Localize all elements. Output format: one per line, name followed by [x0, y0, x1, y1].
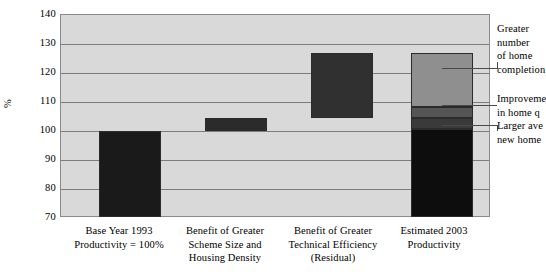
annotation-improvement-in-home-quality: Improveme in home q — [497, 92, 546, 119]
annotation-line-3: of home — [497, 49, 545, 63]
y-tick-110: 110 — [22, 96, 56, 106]
segment-improvement-in-home-quality — [411, 118, 473, 129]
segment-base-productivity — [99, 131, 161, 217]
annotation-line-4: completion — [497, 63, 545, 77]
annotation-line-2: number — [497, 36, 545, 50]
annotation-line-1: Improveme — [497, 92, 546, 106]
leader-line-home-quality — [442, 105, 497, 106]
segment-greater-number-of-home-completions — [411, 107, 473, 118]
leader-line-larger-new-home — [442, 125, 497, 126]
annotation-line-2: new home — [497, 133, 543, 147]
bar-base-year-1993 — [99, 15, 161, 216]
annotation-larger-average-new-home: Larger ave new home — [497, 119, 543, 146]
segment-technical-efficiency-benefit — [311, 53, 373, 118]
segment-scheme-size-benefit — [205, 118, 267, 131]
x-label-line-3: (Residual) — [263, 251, 403, 265]
x-label-estimated-2003-productivity: Estimated 2003 Productivity — [376, 224, 492, 251]
x-label-line-2: Productivity — [376, 238, 492, 252]
segment-estimated-total-2003 — [411, 53, 473, 107]
y-tick-100: 100 — [22, 125, 56, 135]
y-axis-title: % — [2, 99, 13, 108]
y-tick-80: 80 — [22, 183, 56, 193]
annotation-line-1: Larger ave — [497, 119, 543, 133]
annotation-line-1: Greater — [497, 22, 545, 36]
bar-benefit-scheme-size — [205, 15, 267, 216]
y-tick-90: 90 — [22, 154, 56, 164]
x-label-line-1: Estimated 2003 — [376, 224, 492, 238]
y-axis: 140 130 120 110 100 90 80 70 — [16, 0, 56, 275]
annotation-line-2: in home q — [497, 106, 546, 120]
y-tick-70: 70 — [22, 212, 56, 222]
plot-area — [60, 14, 490, 217]
y-tick-130: 130 — [22, 38, 56, 48]
bar-estimated-2003-productivity — [411, 15, 473, 216]
leader-line-home-completions — [442, 68, 497, 69]
bar-benefit-technical-efficiency — [311, 15, 373, 216]
annotation-greater-number-of-home-completions: Greater number of home completion — [497, 22, 545, 76]
y-tick-140: 140 — [22, 9, 56, 19]
segment-larger-average-new-home — [411, 129, 473, 217]
y-tick-120: 120 — [22, 67, 56, 77]
